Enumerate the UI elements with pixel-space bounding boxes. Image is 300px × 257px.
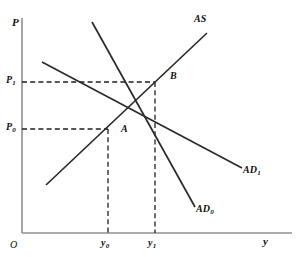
origin-label: O	[10, 240, 17, 250]
output-tick-y1: y1	[148, 238, 156, 248]
price-tick-p0: P0	[6, 122, 16, 132]
output-tick-y0-subscript: 0	[106, 242, 110, 250]
ad-as-diagram: P y O P1 P0 y0 y1 AS AD0 AD1 A B	[0, 0, 300, 257]
equilibrium-point-label-b: B	[170, 71, 177, 81]
y-axis-label: P	[12, 17, 19, 28]
output-tick-y0-base: y	[101, 237, 106, 248]
curve-label-ad1: AD1	[243, 165, 261, 175]
curve-label-ad0-subscript: 0	[210, 208, 214, 216]
x-axis-label: y	[263, 236, 268, 247]
curve-label-as: AS	[194, 14, 207, 24]
curve-label-ad0: AD0	[196, 204, 214, 214]
equilibrium-point-label-a: A	[121, 124, 128, 134]
curve-label-ad1-base: AD	[243, 164, 257, 175]
price-tick-p1: P1	[6, 75, 16, 85]
curve-label-ad0-base: AD	[196, 203, 210, 214]
curve-label-as-base: AS	[194, 13, 207, 24]
curve-as	[46, 33, 207, 185]
curve-label-ad1-subscript: 1	[257, 169, 261, 177]
price-tick-p1-subscript: 1	[12, 79, 16, 87]
output-tick-y1-subscript: 1	[153, 242, 157, 250]
output-tick-y1-base: y	[148, 237, 153, 248]
output-tick-y0: y0	[101, 238, 109, 248]
diagram-canvas	[0, 0, 300, 257]
curve-ad1	[42, 62, 242, 168]
price-tick-p0-subscript: 0	[12, 126, 16, 134]
